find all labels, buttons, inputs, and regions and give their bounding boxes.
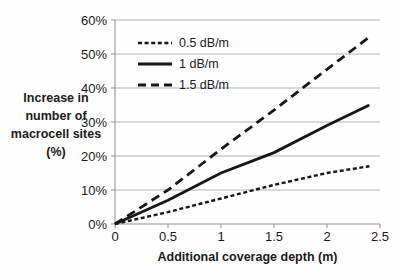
- y-tick-label: 0%: [88, 217, 107, 232]
- chart-figure: 0%10%20%30%40%50%60%00.511.522.5 Increas…: [0, 0, 400, 280]
- y-tick-label: 60%: [81, 13, 107, 28]
- legend-label: 1.5 dB/m: [179, 78, 229, 92]
- x-tick-label: 2.5: [371, 229, 389, 244]
- legend-line-sample: [138, 39, 172, 47]
- y-axis-title-line: Increase in: [0, 89, 112, 107]
- y-tick-label: 10%: [81, 183, 107, 198]
- legend-line-sample: [138, 60, 172, 68]
- legend-item: 0.5 dB/m: [138, 32, 229, 53]
- x-tick-label: 1.5: [265, 229, 283, 244]
- x-tick-label: 0.5: [159, 229, 177, 244]
- x-tick-label: 0: [111, 229, 118, 244]
- legend-label: 0.5 dB/m: [179, 36, 229, 50]
- x-tick-label: 2: [323, 229, 330, 244]
- legend-item: 1.5 dB/m: [138, 74, 229, 95]
- y-axis-title-line: number of: [0, 107, 112, 125]
- y-tick-label: 50%: [81, 47, 107, 62]
- series-line-0.5-dB-m: [115, 166, 369, 224]
- series-line-1-dB-m: [115, 105, 369, 224]
- legend-label: 1 dB/m: [179, 57, 219, 71]
- legend-item: 1 dB/m: [138, 53, 229, 74]
- legend-line-sample: [138, 81, 172, 89]
- y-axis-title: Increase in number of macrocell sites (%…: [0, 89, 112, 161]
- y-axis-title-line: (%): [0, 143, 112, 161]
- chart-legend: 0.5 dB/m1 dB/m1.5 dB/m: [138, 32, 229, 95]
- x-axis-title: Additional coverage depth (m): [115, 250, 380, 264]
- x-tick-label: 1: [217, 229, 224, 244]
- y-axis-title-line: macrocell sites: [0, 125, 112, 143]
